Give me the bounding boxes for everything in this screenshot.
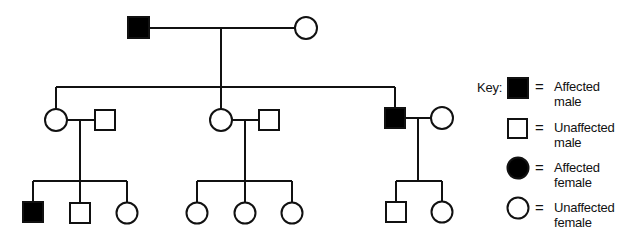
unaffected-male-III-7 [386, 202, 406, 222]
unaffected-female-II-1 [45, 109, 67, 131]
key-label-line1: Affected [554, 160, 600, 175]
affected-male-I-1 [128, 17, 149, 38]
unaffected-female-III-6 [282, 203, 303, 224]
key-label-unaffected-male: Unaffected male [554, 120, 615, 150]
unaffected-female-II-6 [431, 107, 453, 129]
key-label-line1: Unaffected [554, 120, 615, 135]
key-label-line1: Unaffected [554, 200, 615, 215]
key-equals-4: = [535, 199, 544, 216]
key-title: Key: [477, 80, 502, 95]
key-label-line2: male [554, 135, 615, 150]
unaffected-female-III-5 [235, 203, 256, 224]
unaffected-female-II-3 [210, 109, 232, 131]
key-open-circle-icon [508, 198, 529, 219]
key-label-unaffected-female: Unaffected female [554, 200, 615, 230]
key-open-square-icon [508, 119, 527, 138]
key-symbols [508, 78, 529, 219]
unaffected-male-III-2 [70, 203, 90, 223]
unaffected-male-II-2 [95, 110, 115, 130]
key-label-line2: male [554, 94, 600, 109]
key-equals-2: = [535, 119, 544, 136]
unaffected-female-III-4 [187, 203, 208, 224]
key-equals-1: = [535, 78, 544, 95]
key-equals-3: = [535, 159, 544, 176]
key-label-line2: female [554, 215, 615, 230]
key-filled-circle-icon [508, 158, 529, 179]
affected-male-III-1 [23, 202, 43, 222]
unaffected-female-III-3 [117, 203, 138, 224]
unaffected-female-I-2 [295, 17, 317, 39]
unaffected-female-III-8 [432, 202, 453, 223]
key-filled-square-icon [508, 78, 528, 98]
unaffected-male-II-4 [259, 110, 279, 130]
affected-male-II-5 [385, 108, 405, 128]
key-label-affected-male: Affected male [554, 79, 600, 109]
key-label-line2: female [554, 175, 600, 190]
key-label-line1: Affected [554, 79, 600, 94]
key-label-affected-female: Affected female [554, 160, 600, 190]
